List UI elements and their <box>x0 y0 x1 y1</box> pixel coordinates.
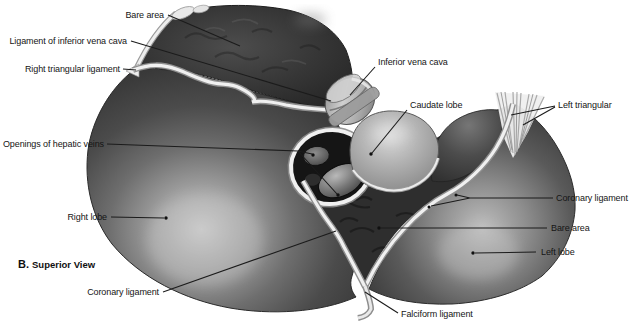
label-falciform-ligament: Falciform ligament <box>401 309 473 320</box>
caption-title: Superior View <box>32 259 95 270</box>
label-openings-of-hepatic-veins: Openings of hepatic veins <box>3 139 104 150</box>
label-left-lobe: Left lobe <box>541 247 575 258</box>
figure-superior-view-liver: Bare area Ligament of inferior vena cava… <box>0 0 632 324</box>
label-inferior-vena-cava: Inferior vena cava <box>378 57 448 68</box>
label-caudate-lobe: Caudate lobe <box>410 100 462 111</box>
caudate-lobe-shape <box>350 111 439 191</box>
falciform-ligament-shape <box>358 286 371 318</box>
label-left-triangular: Left triangular <box>558 100 612 111</box>
label-bare-area-top: Bare area <box>125 10 164 21</box>
label-right-triangular-ligament: Right triangular ligament <box>25 64 120 75</box>
label-coronary-ligament-lower: Coronary ligament <box>87 287 159 298</box>
label-bare-area-central: Bare area <box>551 223 590 234</box>
label-coronary-ligament-right: Coronary ligament <box>556 193 628 204</box>
label-ligament-of-ivc: Ligament of inferior vena cava <box>9 36 127 47</box>
liver-illustration <box>0 0 632 324</box>
figure-caption: B.Superior View <box>18 254 95 272</box>
label-right-lobe: Right lobe <box>67 212 107 223</box>
caption-letter: B. <box>18 258 29 270</box>
